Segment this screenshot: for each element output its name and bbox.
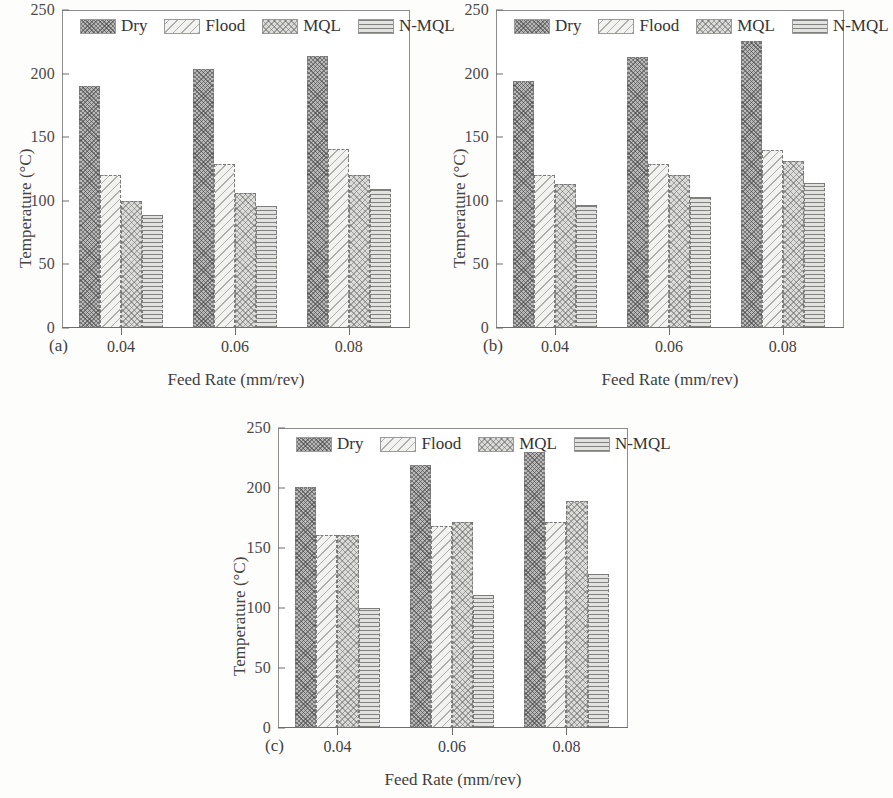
legend-label: Dry [555, 16, 581, 36]
bar-flood-0.08 [545, 522, 566, 728]
legend-label: Dry [121, 16, 147, 36]
chart-panel-c: 050100150200250 0.040.060.08 DryFloodMQL… [278, 428, 628, 798]
legend-swatch-flood-icon [598, 19, 634, 34]
legend-swatch-flood-icon [164, 19, 200, 34]
bar-dry-0.06 [410, 465, 431, 728]
bar-n-mql-0.04 [359, 608, 380, 728]
legend-label: N-MQL [833, 16, 889, 36]
bar-mql-0.04 [337, 535, 358, 728]
y-tick-label: 150 [464, 128, 496, 146]
bar-n-mql-0.04 [142, 215, 163, 328]
y-axis-title-b: Temperature (°C) [450, 149, 470, 268]
bar-layer-a [62, 10, 410, 328]
legend-swatch-n-mql-icon [358, 19, 394, 34]
bar-mql-0.04 [121, 201, 142, 328]
bar-flood-0.08 [328, 149, 349, 328]
bar-n-mql-0.04 [576, 205, 597, 328]
y-tick-label: 50 [473, 255, 496, 273]
x-axis-line-c [278, 727, 628, 728]
bar-mql-0.08 [566, 501, 587, 728]
bar-flood-0.08 [762, 150, 783, 328]
bar-dry-0.08 [524, 452, 545, 728]
y-tick-label: 250 [246, 419, 278, 437]
bar-n-mql-0.06 [690, 197, 711, 328]
y-tick-label: 0 [47, 319, 62, 337]
bar-dry-0.04 [295, 487, 316, 728]
bar-n-mql-0.08 [804, 183, 825, 328]
bar-flood-0.04 [316, 535, 337, 728]
legend-swatch-dry-icon [80, 19, 116, 34]
legend-label: MQL [303, 16, 341, 36]
legend-item-n-mql: N-MQL [574, 434, 688, 454]
y-axis-title-a: Temperature (°C) [16, 149, 36, 268]
legend-item-n-mql: N-MQL [792, 16, 893, 36]
plot-area-a: 050100150200250 0.040.060.08 DryFloodMQL… [62, 10, 410, 328]
legend-swatch-n-mql-icon [792, 19, 828, 34]
legend-item-dry: Dry [80, 16, 164, 36]
legend-swatch-mql-icon [478, 437, 514, 452]
legend-item-mql: MQL [478, 434, 574, 454]
legend-item-flood: Flood [380, 434, 478, 454]
bar-layer-c [278, 428, 628, 728]
y-tick-label: 200 [30, 65, 62, 83]
bar-flood-0.04 [534, 175, 555, 328]
x-axis-title-b: Feed Rate (mm/rev) [496, 370, 844, 390]
y-tick-label: 250 [464, 1, 496, 19]
bar-dry-0.04 [513, 81, 534, 328]
y-tick-label: 150 [30, 128, 62, 146]
y-tick-label: 200 [246, 479, 278, 497]
legend-label: Dry [337, 434, 363, 454]
x-axis-line-a [62, 327, 410, 328]
legend-item-dry: Dry [296, 434, 380, 454]
legend-item-flood: Flood [164, 16, 262, 36]
x-axis-title-a: Feed Rate (mm/rev) [62, 370, 410, 390]
bar-flood-0.06 [431, 526, 452, 728]
legend-c: DryFloodMQLN-MQL [296, 434, 688, 454]
legend-swatch-dry-icon [296, 437, 332, 452]
chart-panel-a: 050100150200250 0.040.060.08 DryFloodMQL… [62, 10, 410, 390]
legend-swatch-n-mql-icon [574, 437, 610, 452]
x-axis-line-b [496, 327, 844, 328]
legend-label: N-MQL [615, 434, 671, 454]
bar-mql-0.08 [349, 175, 370, 328]
bar-mql-0.06 [669, 175, 690, 328]
y-tick-label: 250 [30, 1, 62, 19]
bar-flood-0.04 [100, 175, 121, 328]
bar-n-mql-0.08 [588, 574, 609, 728]
bar-mql-0.06 [452, 522, 473, 728]
bar-dry-0.04 [79, 86, 100, 328]
x-axis-title-c: Feed Rate (mm/rev) [278, 770, 628, 790]
legend-item-mql: MQL [262, 16, 358, 36]
bar-mql-0.08 [783, 161, 804, 328]
y-tick-label: 50 [39, 255, 62, 273]
bar-flood-0.06 [648, 164, 669, 328]
y-tick-label: 0 [481, 319, 496, 337]
bar-n-mql-0.06 [256, 206, 277, 328]
bar-n-mql-0.08 [370, 189, 391, 328]
legend-label: MQL [737, 16, 775, 36]
bar-mql-0.06 [235, 193, 256, 328]
y-tick-label: 100 [246, 599, 278, 617]
bar-flood-0.06 [214, 164, 235, 328]
bar-layer-b [496, 10, 844, 328]
bar-dry-0.06 [627, 57, 648, 328]
legend-item-mql: MQL [696, 16, 792, 36]
y-tick-label: 200 [464, 65, 496, 83]
bar-n-mql-0.06 [473, 595, 494, 728]
legend-swatch-flood-icon [380, 437, 416, 452]
legend-label: Flood [421, 434, 461, 454]
panel-tag-b: (b) [483, 336, 503, 356]
chart-panel-b: 050100150200250 0.040.060.08 DryFloodMQL… [496, 10, 844, 390]
legend-swatch-mql-icon [262, 19, 298, 34]
panel-tag-c: (c) [265, 736, 284, 756]
legend-swatch-mql-icon [696, 19, 732, 34]
bar-dry-0.06 [193, 69, 214, 328]
legend-label: Flood [639, 16, 679, 36]
bar-mql-0.04 [555, 184, 576, 328]
bar-dry-0.08 [307, 56, 328, 328]
plot-area-b: 050100150200250 0.040.060.08 DryFloodMQL… [496, 10, 844, 328]
panel-tag-a: (a) [49, 336, 68, 356]
y-tick-label: 150 [246, 539, 278, 557]
legend-a: DryFloodMQLN-MQL [80, 16, 472, 36]
legend-label: MQL [519, 434, 557, 454]
